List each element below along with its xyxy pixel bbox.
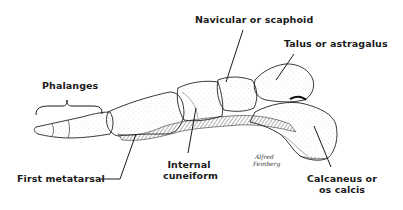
first-metatarsal-bone bbox=[106, 92, 184, 136]
artist-signature: Alfred Feinberg bbox=[253, 153, 280, 167]
phalanges-bracket bbox=[36, 100, 102, 115]
talus-bone bbox=[254, 64, 313, 102]
signature-line1: Alfred bbox=[253, 153, 280, 160]
label-calcaneus-line2: os calcis bbox=[306, 184, 378, 195]
label-phalanges: Phalanges bbox=[42, 80, 98, 91]
label-calcaneus-line1: Calcaneus or bbox=[306, 173, 378, 184]
label-internal-cuneiform-line1: Internal bbox=[163, 159, 215, 170]
label-internal-cuneiform: Internal cuneiform bbox=[163, 159, 215, 181]
label-navicular: Navicular or scaphoid bbox=[195, 14, 313, 25]
label-first-metatarsal: First metatarsal bbox=[17, 173, 105, 184]
label-calcaneus: Calcaneus or os calcis bbox=[306, 173, 378, 195]
label-internal-cuneiform-line2: cuneiform bbox=[163, 170, 215, 181]
signature-line2: Feinberg bbox=[253, 160, 280, 167]
leader-navicular bbox=[226, 30, 243, 82]
leader-first-metatarsal bbox=[101, 134, 136, 179]
calcaneus-bone bbox=[250, 102, 337, 160]
phalanges-bones bbox=[34, 112, 113, 138]
label-talus: Talus or astragalus bbox=[284, 38, 388, 49]
